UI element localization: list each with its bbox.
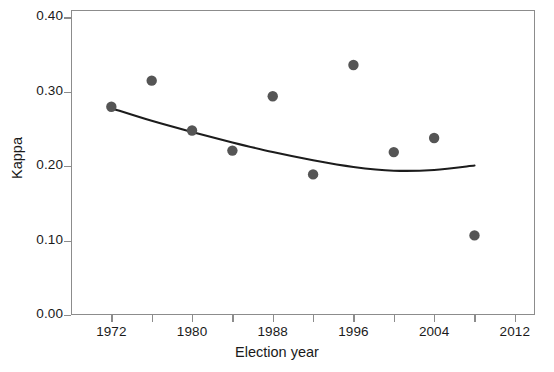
x-tick-mark xyxy=(273,315,274,322)
data-point-group xyxy=(106,60,480,241)
y-tick-label: 0.10 xyxy=(36,232,63,247)
x-tick-mark xyxy=(111,315,112,322)
x-tick-label: 2004 xyxy=(419,324,449,339)
x-tick-mark xyxy=(192,315,193,322)
data-point xyxy=(469,230,479,240)
data-point xyxy=(227,145,237,155)
y-tick-label: 0.30 xyxy=(36,83,63,98)
data-point xyxy=(187,125,197,135)
x-tick-mark xyxy=(152,315,153,322)
x-tick-label: 1972 xyxy=(96,324,126,339)
plot-data-layer xyxy=(71,10,535,315)
y-tick-mark xyxy=(64,315,71,316)
x-tick-label: 1996 xyxy=(338,324,368,339)
data-point xyxy=(429,133,439,143)
data-point xyxy=(106,102,116,112)
x-tick-label: 2012 xyxy=(500,324,530,339)
y-tick-label: 0.40 xyxy=(36,8,63,23)
y-axis-title: Kappa xyxy=(9,123,25,193)
x-tick-mark xyxy=(232,315,233,322)
x-tick-mark xyxy=(394,315,395,322)
data-point xyxy=(348,60,358,70)
y-tick-label: 0.20 xyxy=(36,157,63,172)
data-point xyxy=(268,91,278,101)
trend-line xyxy=(111,108,474,171)
data-point xyxy=(147,75,157,85)
y-tick-mark xyxy=(64,17,71,18)
x-tick-mark xyxy=(515,315,516,322)
y-tick-mark xyxy=(64,241,71,242)
x-tick-mark xyxy=(434,315,435,322)
data-point xyxy=(308,169,318,179)
x-tick-label: 1988 xyxy=(258,324,288,339)
y-tick-mark xyxy=(64,166,71,167)
chart-figure: 0.000.100.200.300.40 Kappa 1972198019881… xyxy=(0,0,554,372)
x-axis-title: Election year xyxy=(0,344,554,360)
y-tick-mark xyxy=(64,92,71,93)
x-tick-label: 1980 xyxy=(177,324,207,339)
y-tick-label: 0.00 xyxy=(36,306,63,321)
x-tick-mark xyxy=(353,315,354,322)
x-tick-mark xyxy=(313,315,314,322)
data-point xyxy=(389,147,399,157)
x-tick-mark xyxy=(474,315,475,322)
